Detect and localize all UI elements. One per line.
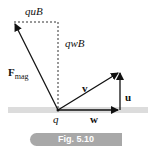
- label-f-sub: mag: [15, 72, 29, 81]
- label-qub: quB: [25, 6, 43, 17]
- label-w: w: [90, 114, 98, 125]
- label-f-mag: Fmag: [8, 67, 29, 78]
- figure-caption-badge: Fig. 5.10: [30, 133, 122, 146]
- v-vector: [58, 73, 118, 110]
- label-f-main: F: [8, 66, 15, 78]
- label-qwb: qwB: [65, 38, 85, 49]
- label-v: v: [82, 83, 88, 94]
- figure-caption: Fig. 5.10: [30, 133, 122, 146]
- charge-point: [57, 109, 60, 112]
- label-u: u: [125, 92, 131, 103]
- label-q: q: [53, 114, 59, 125]
